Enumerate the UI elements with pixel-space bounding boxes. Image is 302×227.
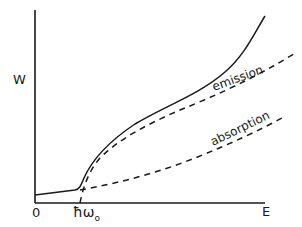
- threshold-subscript: o: [94, 213, 100, 223]
- threshold-base: ħω: [73, 204, 94, 220]
- absorption-label: absorption: [208, 108, 272, 149]
- chart-area: emission absorption W 0 ħωo E: [0, 0, 302, 227]
- chart-svg: emission absorption: [0, 0, 302, 227]
- x-axis-label: E: [262, 205, 270, 218]
- y-axis-label: W: [13, 73, 26, 86]
- emission-label: emission: [210, 62, 265, 93]
- total-curve: [35, 16, 265, 195]
- threshold-label: ħωo: [73, 205, 100, 223]
- origin-label: 0: [32, 206, 40, 219]
